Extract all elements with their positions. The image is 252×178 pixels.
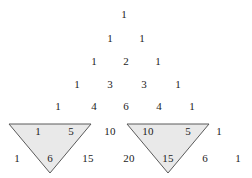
pascal-entry-r5-c3: 10 [142,126,153,137]
pascal-entry-r6-c1: 6 [47,153,53,164]
pascal-entry-r0-c0: 1 [121,9,127,20]
pascal-entry-r5-c4: 5 [185,126,191,137]
pascal-entry-r6-c3: 20 [123,153,134,164]
pascal-entry-r3-c0: 1 [74,79,80,90]
pascal-entry-r4-c2: 6 [123,101,129,112]
pascal-entry-r5-c0: 1 [35,126,41,137]
pascal-entry-r6-c2: 15 [82,153,93,164]
pascal-entry-r6-c0: 1 [14,153,20,164]
pascal-entry-r5-c1: 5 [68,126,74,137]
pascal-entry-r6-c4: 15 [162,153,173,164]
pascal-entry-r5-c5: 1 [216,126,222,137]
pascal-entry-r2-c2: 1 [155,56,161,67]
pascal-entry-r4-c0: 1 [55,101,61,112]
pascal-entry-r3-c3: 1 [175,79,181,90]
pascal-entry-r4-c4: 1 [189,101,195,112]
pascal-number-grid: 111121133114641151010511615201561 [0,0,252,178]
pascal-entry-r5-c2: 10 [104,126,115,137]
pascal-entry-r3-c2: 3 [141,79,147,90]
pascal-entry-r6-c6: 1 [235,153,241,164]
pascal-entry-r1-c1: 1 [139,33,145,44]
pascal-entry-r1-c0: 1 [107,33,113,44]
pascal-entry-r2-c1: 2 [123,56,129,67]
pascal-entry-r2-c0: 1 [91,56,97,67]
pascal-entry-r3-c1: 3 [107,79,113,90]
pascal-entry-r6-c5: 6 [202,153,208,164]
pascal-entry-r4-c1: 4 [91,101,97,112]
pascals-triangle-figure: 111121133114641151010511615201561 [0,0,252,178]
pascal-entry-r4-c3: 4 [156,101,162,112]
